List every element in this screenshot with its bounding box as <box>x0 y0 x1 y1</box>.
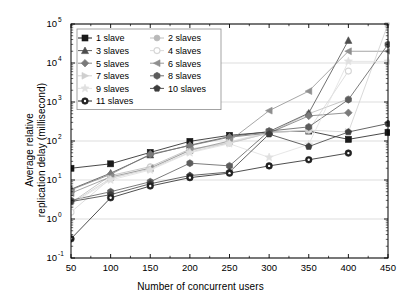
chart-figure: 50100150200250300350400450 10-1100101102… <box>0 0 401 303</box>
legend-label: 6 slaves <box>168 59 202 69</box>
x-tick-label: 400 <box>340 262 356 273</box>
svg-text:10: 10 <box>46 96 57 107</box>
legend-label: 3 slaves <box>96 46 130 56</box>
y-tick-label: 105 <box>46 16 62 29</box>
legend-label: 9 slaves <box>96 84 130 94</box>
x-tick-label: 300 <box>261 262 277 273</box>
x-tick-labels: 50100150200250300350400450 <box>66 262 396 273</box>
legend-label: 5 slaves <box>96 59 130 69</box>
y-axis-title-line2: replication delay (millisecond) <box>36 30 48 270</box>
legend-label: 2 slaves <box>168 33 202 43</box>
svg-text:10: 10 <box>46 18 57 29</box>
svg-text:10: 10 <box>46 57 57 68</box>
legend-label: 10 slaves <box>168 84 207 94</box>
x-tick-label: 100 <box>103 262 119 273</box>
y-tick-label: 101 <box>46 172 62 185</box>
legend-label: 1 slave <box>96 33 125 43</box>
legend-label: 8 slaves <box>168 71 202 81</box>
svg-text:10: 10 <box>46 213 57 224</box>
svg-text:10: 10 <box>46 252 57 263</box>
x-tick-label: 450 <box>380 262 396 273</box>
svg-text:0: 0 <box>58 211 62 218</box>
svg-text:10: 10 <box>46 174 57 185</box>
x-tick-label: 350 <box>301 262 317 273</box>
y-tick-label: 103 <box>46 94 62 107</box>
y-axis-title: Average relative replication delay (mill… <box>24 30 48 270</box>
x-tick-label: 200 <box>182 262 198 273</box>
x-tick-label: 250 <box>222 262 238 273</box>
svg-text:-1: -1 <box>58 250 64 257</box>
svg-text:10: 10 <box>46 135 57 146</box>
y-tick-label: 10-1 <box>46 250 64 263</box>
svg-text:4: 4 <box>58 55 62 62</box>
y-tick-label: 102 <box>46 133 62 146</box>
y-axis-title-line1: Average relative <box>24 30 36 270</box>
svg-text:1: 1 <box>58 172 62 179</box>
legend: 1 slave2 slaves3 slaves4 slaves5 slaves6… <box>77 29 221 110</box>
y-tick-label: 104 <box>46 55 62 68</box>
legend-label: 7 slaves <box>96 71 130 81</box>
y-tick-label: 100 <box>46 211 62 224</box>
legend-label: 11 slaves <box>96 96 134 106</box>
svg-text:5: 5 <box>58 16 62 23</box>
svg-text:3: 3 <box>58 94 62 101</box>
x-tick-label: 50 <box>66 262 77 273</box>
svg-text:2: 2 <box>58 133 62 140</box>
x-axis-title: Number of concurrent users <box>0 281 401 292</box>
legend-label: 4 slaves <box>168 46 202 56</box>
y-tick-labels: 10-1100101102103104105 <box>46 16 64 263</box>
plot-canvas: 50100150200250300350400450 10-1100101102… <box>0 0 401 303</box>
x-tick-label: 150 <box>142 262 158 273</box>
